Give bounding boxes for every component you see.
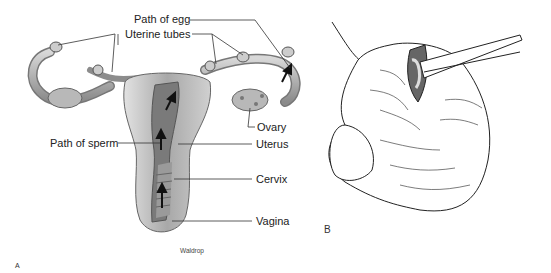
illustrator-credit: Waldrop bbox=[180, 248, 204, 255]
label-path-of-sperm: Path of sperm bbox=[50, 138, 118, 149]
vasectomy-illustration bbox=[329, 22, 522, 211]
label-vagina: Vagina bbox=[256, 216, 289, 227]
label-uterine-tubes: Uterine tubes bbox=[125, 29, 190, 40]
panel-label-b: B bbox=[324, 224, 331, 235]
label-ovary: Ovary bbox=[257, 122, 286, 133]
label-uterus: Uterus bbox=[256, 139, 288, 150]
label-path-of-egg: Path of egg bbox=[134, 14, 190, 25]
label-cervix: Cervix bbox=[256, 174, 287, 185]
panel-label-a: A bbox=[15, 262, 20, 269]
